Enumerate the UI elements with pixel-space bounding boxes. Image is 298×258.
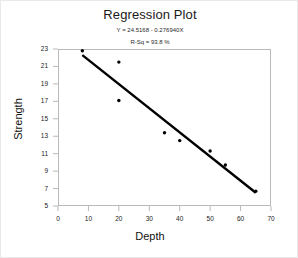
x-tick-label: 60 <box>233 215 249 223</box>
y-tick-label: 9 <box>32 167 48 175</box>
y-tick-label: 13 <box>32 132 48 140</box>
x-tick-label: 20 <box>111 215 127 223</box>
x-tick-label: 50 <box>202 215 218 223</box>
y-tick-label: 23 <box>32 45 48 53</box>
x-tick-label: 40 <box>172 215 188 223</box>
x-tick-label: 0 <box>50 215 66 223</box>
y-tick-label: 21 <box>32 62 48 70</box>
x-axis-title: Depth <box>1 230 298 242</box>
y-tick-label: 15 <box>32 115 48 123</box>
title-block: Regression Plot Y = 24.5168 - 0.276940X … <box>1 7 298 47</box>
x-tick-label: 30 <box>141 215 157 223</box>
y-tick-label: 17 <box>32 97 48 105</box>
x-tick-label: 70 <box>263 215 279 223</box>
y-axis-title: Strength <box>12 89 24 149</box>
x-tick-label: 10 <box>80 215 96 223</box>
y-tick-label: 7 <box>32 185 48 193</box>
y-tick-label: 19 <box>32 80 48 88</box>
y-tick-label: 5 <box>32 202 48 210</box>
plot-area <box>58 49 271 206</box>
regression-plot-figure: Regression Plot Y = 24.5168 - 0.276940X … <box>0 0 298 258</box>
y-tick-label: 11 <box>32 150 48 158</box>
regression-equation: Y = 24.5168 - 0.276940X <box>1 26 298 35</box>
page-title: Regression Plot <box>1 7 298 23</box>
